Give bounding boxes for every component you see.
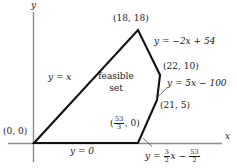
- fraction-numerator: 3: [164, 149, 170, 156]
- fraction-3-2: 32: [164, 149, 170, 163]
- equation-label-three-halves-x-minus-fifty-three-halves: y = 32x − 532: [145, 149, 200, 163]
- paren-open: (: [110, 118, 114, 128]
- vertex-label-origin: (0, 0): [3, 127, 27, 136]
- eq-lead: y =: [145, 151, 163, 161]
- feasible-region-figure: y x (0, 0) (18, 18) (22, 10) (21, 5) (53…: [0, 0, 237, 168]
- vertex-label-22-10: (22, 10): [163, 62, 199, 71]
- fraction-denominator: 2: [189, 156, 199, 164]
- vertex-label-18-18: (18, 18): [113, 14, 149, 23]
- fraction-denominator: 3: [114, 123, 124, 131]
- y-axis-label: y: [31, 1, 36, 10]
- vertex-label-21-5: (21, 5): [160, 101, 190, 110]
- equation-label-y-equals-0: y = 0: [70, 147, 94, 156]
- vertex-label-53-over-3: (533, 0): [110, 116, 140, 130]
- equation-label-neg-2x-plus-54: y = −2x + 54: [154, 37, 215, 46]
- paren-close-zero: , 0): [125, 118, 140, 128]
- leader-line-three-halves: [143, 138, 152, 147]
- fraction-53-2: 532: [189, 149, 199, 163]
- fraction-numerator: 53: [189, 149, 199, 156]
- fraction-numerator: 53: [114, 116, 124, 123]
- feasible-set-label-line1: feasible: [96, 72, 136, 81]
- eq-mid: x −: [171, 151, 189, 161]
- feasible-set-label-line2: set: [96, 84, 136, 93]
- equation-label-5x-minus-100: y = 5x − 100: [167, 79, 227, 88]
- fraction-denominator: 2: [164, 156, 170, 164]
- fraction-53-3: 533: [114, 116, 124, 130]
- equation-label-y-equals-x: y = x: [48, 73, 71, 82]
- x-axis-label: x: [225, 132, 230, 141]
